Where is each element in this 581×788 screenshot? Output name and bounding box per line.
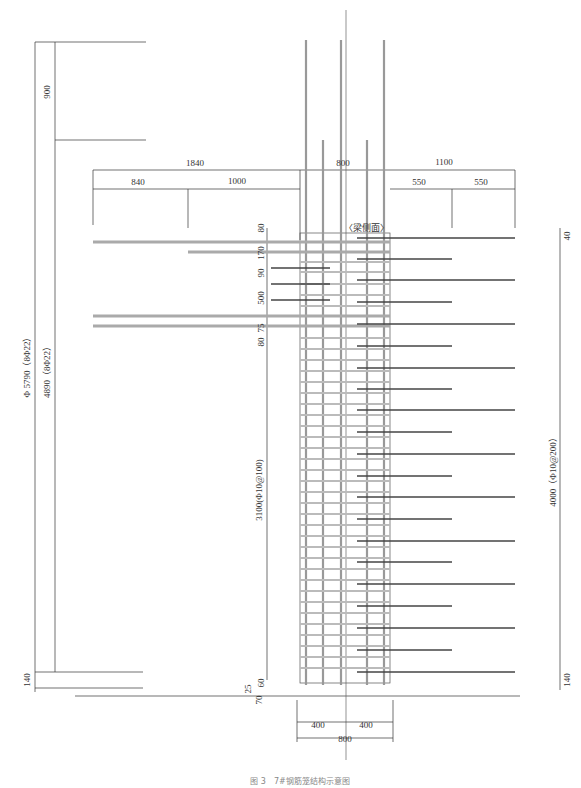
dim-900: 900 xyxy=(42,85,52,99)
dim-stirrup-zone: 3100(Φ10@100) xyxy=(254,459,264,520)
dim-140-right: 140 xyxy=(562,673,572,687)
dim-550-a: 550 xyxy=(412,177,426,187)
dim-base-70: 70 xyxy=(254,695,264,705)
dim-1100: 1100 xyxy=(435,157,453,167)
rebar-cage-drawing: 900 1840 840 1000 800 1100 550 550 〈梁侧面〉… xyxy=(0,0,581,788)
dim-400-right: 400 xyxy=(359,720,373,730)
dim-400-left: 400 xyxy=(311,720,325,730)
dim-840: 840 xyxy=(131,177,145,187)
figure-caption: 图 3 7#钢筋笼结构示意图 xyxy=(250,776,349,786)
dim-800-bottom: 800 xyxy=(338,734,352,744)
section-label: 〈梁侧面〉 xyxy=(344,222,389,233)
dim-4890: 4890（8Φ22） xyxy=(42,342,52,398)
dim-1000: 1000 xyxy=(228,176,247,186)
dim-40: 40 xyxy=(562,231,572,241)
dim-beam-500: 500 xyxy=(256,291,266,305)
dim-right-vertical: 4000（Φ10@200） xyxy=(548,433,558,506)
dim-beam-80-bottom: 80 xyxy=(256,337,266,347)
dim-550-b: 550 xyxy=(474,177,488,187)
dim-beam-80-top: 80 xyxy=(256,223,266,233)
dim-beam-75: 75 xyxy=(256,323,266,333)
dim-base-60: 60 xyxy=(256,678,266,688)
dim-beam-90: 90 xyxy=(256,268,266,278)
dim-140-left: 140 xyxy=(22,673,32,687)
dim-1840: 1840 xyxy=(186,158,205,168)
dim-800-top: 800 xyxy=(336,158,350,168)
dim-beam-170: 170 xyxy=(256,246,266,260)
dim-5790: Φ 5790（8Φ22） xyxy=(22,333,32,398)
dim-base-25: 25 xyxy=(243,684,253,694)
